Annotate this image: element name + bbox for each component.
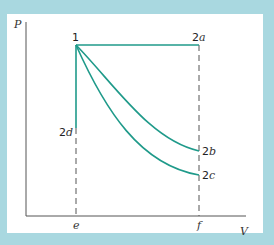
point-2c-label: 2c	[202, 169, 215, 182]
x-tick-e: e	[73, 219, 80, 232]
point-2a-label: 2a	[192, 31, 206, 44]
pv-diagram: P V 1 2a 2b 2c 2d e f	[0, 0, 274, 245]
x-tick-f: f	[196, 219, 203, 232]
point-2d-label: 2d	[59, 126, 73, 139]
point-2b-label: 2b	[202, 145, 216, 158]
point-1-label: 1	[72, 31, 79, 44]
y-axis-label: P	[13, 18, 22, 31]
process-1-2b	[76, 45, 199, 151]
x-axis-label: V	[240, 225, 249, 238]
